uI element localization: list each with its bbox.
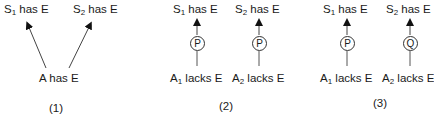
label-s2-has-e: S2 has E xyxy=(73,3,118,16)
label-s1-has-e: S1 has E xyxy=(4,3,49,16)
label-a2-lacks-e: A2 lacks E xyxy=(382,72,434,85)
node-p: P xyxy=(252,36,267,51)
node-p: P xyxy=(190,36,205,51)
label-a-has-e: A has E xyxy=(39,72,79,85)
label-s2-has-e: S2 has E xyxy=(386,3,431,16)
node-q: Q xyxy=(403,36,418,51)
caption-3: (3) xyxy=(373,97,387,110)
node-p: P xyxy=(340,36,355,51)
label-a1-lacks-e: A1 lacks E xyxy=(320,72,372,85)
arrow-a-to-s1 xyxy=(28,25,46,68)
arrow-a-to-s2 xyxy=(69,25,90,68)
label-s1-has-e: S1 has E xyxy=(323,3,368,16)
caption-1: (1) xyxy=(49,102,63,115)
label-a2-lacks-e: A2 lacks E xyxy=(232,72,284,85)
label-a1-lacks-e: A1 lacks E xyxy=(170,72,222,85)
label-s1-has-e: S1 has E xyxy=(173,3,218,16)
caption-2: (2) xyxy=(219,100,233,113)
label-s2-has-e: S2 has E xyxy=(235,3,280,16)
